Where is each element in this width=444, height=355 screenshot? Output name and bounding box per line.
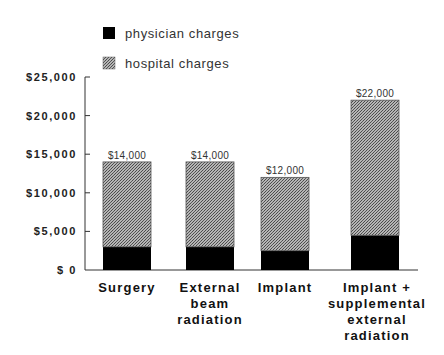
y-axis: $ 0$5,000$10,000$15,000$20,000$25,000 [26,71,90,276]
bar-total-label: $14,000 [108,150,146,161]
x-category-label: external [347,312,406,327]
y-tick-label: $25,000 [26,71,77,83]
bar-total-label: $22,000 [356,88,394,99]
bar-segment-physician [351,235,399,270]
bar-segment-physician [261,251,309,270]
bars: $14,000$14,000$12,000$22,000 [103,88,399,270]
stacked-bar-chart: physician charges hospital charges $ 0$5… [0,0,444,355]
bar-segment-hospital [261,177,309,250]
bar-segment-hospital [103,162,151,247]
x-category-label: supplemental [328,296,426,311]
bar-segment-physician [186,247,234,270]
x-category-label: External [180,280,241,295]
legend: physician charges hospital charges [103,26,239,71]
bar-segment-hospital [351,100,399,235]
x-category-label: Implant + [343,280,411,295]
y-tick-label: $10,000 [26,187,77,199]
bar-total-label: $14,000 [191,150,229,161]
x-category-labels: SurgeryExternalbeamradiationImplantImpla… [98,280,426,343]
y-tick-label: $ 0 [57,264,77,276]
y-tick-label: $15,000 [26,148,77,160]
legend-label-hospital: hospital charges [125,56,229,71]
y-tick-label: $5,000 [34,225,77,237]
bar-segment-physician [103,247,151,270]
x-category-label: beam [191,296,230,311]
bar-segment-hospital [186,162,234,247]
y-tick-label: $20,000 [26,110,77,122]
legend-label-physician: physician charges [125,26,239,41]
x-category-label: radiation [344,328,410,343]
x-category-label: radiation [177,312,243,327]
x-category-label: Surgery [98,280,156,295]
bar-total-label: $12,000 [266,165,304,176]
legend-swatch-hospital [103,57,115,69]
x-category-label: Implant [258,280,313,295]
legend-swatch-physician [103,27,115,39]
